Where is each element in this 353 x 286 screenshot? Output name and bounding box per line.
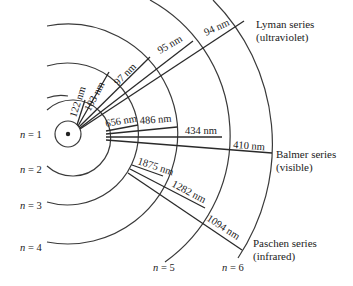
series-region-lyman: (ultraviolet) [256,31,309,44]
level-label-n3: n = 3 [20,200,42,211]
orbit-n2-top [47,95,68,98]
label-410nm: 410 nm [233,139,265,152]
level-label-n2: n = 2 [20,164,42,175]
label-1282nm: 1282 nm [170,178,208,205]
label-94nm: 94 nm [202,17,231,38]
series-name-paschen: Paschen series [253,237,317,249]
level-label-n6: n = 6 [222,262,244,273]
series-name-balmer: Balmer series [276,148,336,160]
level-label-n4: n = 4 [20,242,42,253]
series-region-paschen: (infrared) [253,250,295,263]
hydrogen-spectrum-diagram: 122 nm 103 nm 97 nm 95 nm 94 nm 656 nm 4… [0,0,353,286]
series-region-balmer: (visible) [276,161,313,174]
series-name-lyman: Lyman series [256,18,314,30]
orbit-n3 [47,63,138,205]
nucleus-dot [66,132,70,136]
label-486nm: 486 nm [139,113,171,126]
label-434nm: 434 nm [185,125,217,136]
label-103nm: 103 nm [82,80,107,113]
level-label-n1: n = 1 [20,129,42,140]
label-95nm: 95 nm [156,33,184,56]
level-label-n5: n = 5 [153,262,175,273]
label-97nm: 97 nm [112,61,139,88]
